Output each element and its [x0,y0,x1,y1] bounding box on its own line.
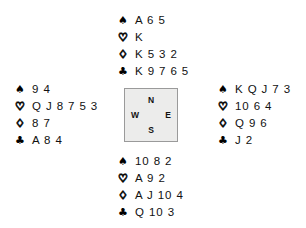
diamond-icon: ♢ [118,190,131,201]
hand-north-spades-row: ♠ A 6 5 [118,12,189,29]
hand-south: ♠ 10 8 2 ♡ A 9 2 ♢ A J 10 4 ♣ Q 10 3 [118,153,184,221]
hand-west-diamonds-row: ♢ 8 7 [15,115,98,132]
hand-south-hearts-row: ♡ A 9 2 [118,170,184,187]
hand-east-hearts-row: ♡ 10 6 4 [218,98,291,115]
hand-east-diamonds-cards: Q 9 6 [231,118,268,130]
hand-east-diamonds-row: ♢ Q 9 6 [218,115,291,132]
hand-east-clubs-cards: J 2 [231,135,253,147]
heart-icon: ♡ [15,101,28,112]
hand-east-spades-row: ♠ K Q J 7 3 [218,81,291,98]
hand-north-diamonds-cards: K 5 3 2 [131,49,178,61]
club-icon: ♣ [118,207,131,218]
compass-label-south: S [125,126,177,135]
diamond-icon: ♢ [15,118,28,129]
hand-east: ♠ K Q J 7 3 ♡ 10 6 4 ♢ Q 9 6 ♣ J 2 [218,81,291,149]
hand-south-clubs-cards: Q 10 3 [131,207,175,219]
spade-icon: ♠ [15,84,28,95]
hand-south-clubs-row: ♣ Q 10 3 [118,204,184,221]
club-icon: ♣ [15,135,28,146]
compass-box: N W E S [124,88,178,142]
hand-south-spades-row: ♠ 10 8 2 [118,153,184,170]
hand-west-clubs-cards: A 8 4 [28,135,63,147]
diamond-icon: ♢ [118,49,131,60]
hand-north: ♠ A 6 5 ♡ K ♢ K 5 3 2 ♣ K 9 7 6 5 [118,12,189,80]
hand-south-diamonds-row: ♢ A J 10 4 [118,187,184,204]
hand-south-hearts-cards: A 9 2 [131,173,166,185]
hand-west-clubs-row: ♣ A 8 4 [15,132,98,149]
club-icon: ♣ [118,66,131,77]
club-icon: ♣ [218,135,231,146]
hand-west-spades-row: ♠ 9 4 [15,81,98,98]
hand-east-clubs-row: ♣ J 2 [218,132,291,149]
compass-label-west: W [131,111,139,120]
hand-south-spades-cards: 10 8 2 [131,156,172,168]
hand-west: ♠ 9 4 ♡ Q J 8 7 5 3 ♢ 8 7 ♣ A 8 4 [15,81,98,149]
spade-icon: ♠ [118,156,131,167]
hand-north-hearts-row: ♡ K [118,29,189,46]
hand-south-diamonds-cards: A J 10 4 [131,190,184,202]
hand-north-diamonds-row: ♢ K 5 3 2 [118,46,189,63]
spade-icon: ♠ [218,84,231,95]
hand-west-hearts-cards: Q J 8 7 5 3 [28,101,98,113]
diamond-icon: ♢ [218,118,231,129]
compass-label-east: E [165,111,171,120]
hand-north-clubs-cards: K 9 7 6 5 [131,66,189,78]
hand-west-spades-cards: 9 4 [28,84,51,96]
heart-icon: ♡ [118,32,131,43]
heart-icon: ♡ [218,101,231,112]
hand-north-clubs-row: ♣ K 9 7 6 5 [118,63,189,80]
bridge-deal-diagram: ♠ A 6 5 ♡ K ♢ K 5 3 2 ♣ K 9 7 6 5 ♠ 9 4 … [0,0,306,228]
hand-west-hearts-row: ♡ Q J 8 7 5 3 [15,98,98,115]
hand-west-diamonds-cards: 8 7 [28,118,51,130]
heart-icon: ♡ [118,173,131,184]
spade-icon: ♠ [118,15,131,26]
hand-east-spades-cards: K Q J 7 3 [231,84,291,96]
compass-label-north: N [125,96,177,105]
hand-north-hearts-cards: K [131,32,144,44]
hand-east-hearts-cards: 10 6 4 [231,101,272,113]
hand-north-spades-cards: A 6 5 [131,15,166,27]
